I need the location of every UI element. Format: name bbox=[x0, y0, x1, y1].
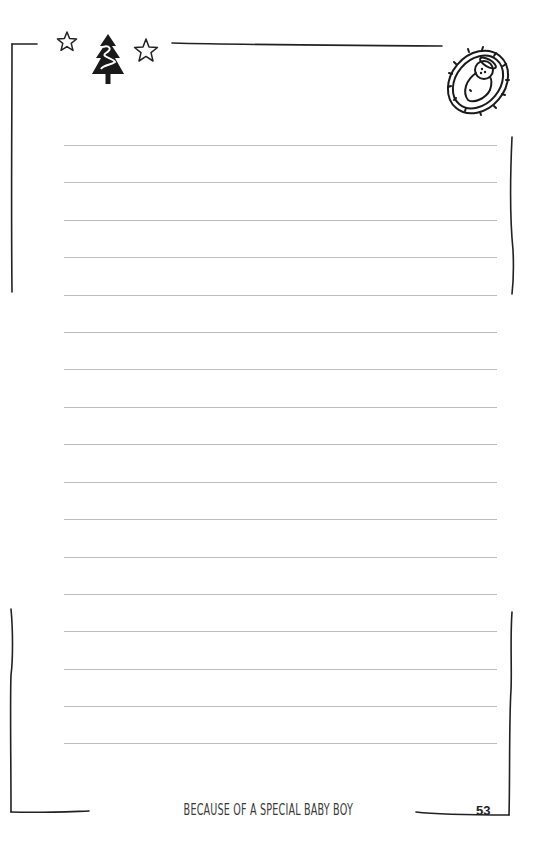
ruled-line[interactable] bbox=[64, 220, 497, 221]
ruled-line[interactable] bbox=[64, 594, 497, 595]
ruled-line[interactable] bbox=[64, 332, 497, 333]
journal-page: BECAUSE OF A SPECIAL BABY BOY 53 bbox=[0, 0, 537, 849]
ruled-line[interactable] bbox=[64, 295, 497, 296]
ruled-line[interactable] bbox=[64, 706, 497, 707]
frame-top-right-stroke bbox=[172, 43, 442, 46]
frame-right-lower bbox=[509, 612, 512, 815]
footer-title: BECAUSE OF A SPECIAL BABY BOY bbox=[102, 801, 435, 819]
ruled-line[interactable] bbox=[64, 519, 497, 520]
ruled-line[interactable] bbox=[64, 444, 497, 445]
ruled-line[interactable] bbox=[64, 669, 497, 670]
ruled-line[interactable] bbox=[64, 557, 497, 558]
page-frame bbox=[0, 0, 537, 849]
ruled-line[interactable] bbox=[64, 743, 497, 744]
ruled-line[interactable] bbox=[64, 257, 497, 258]
ruled-line[interactable] bbox=[64, 407, 497, 408]
frame-left-lower bbox=[11, 609, 13, 812]
frame-bottom-left bbox=[11, 811, 89, 812]
ruled-line[interactable] bbox=[64, 182, 497, 183]
baby-jesus-manger-icon bbox=[442, 44, 514, 120]
page-number: 53 bbox=[476, 803, 490, 818]
ruled-line[interactable] bbox=[64, 369, 497, 370]
christmas-tree-icon bbox=[89, 32, 127, 87]
ruled-line[interactable] bbox=[64, 631, 497, 632]
ruled-line[interactable] bbox=[64, 145, 497, 146]
frame-right-upper bbox=[511, 137, 514, 294]
ruled-line[interactable] bbox=[64, 482, 497, 483]
star-outline-icon bbox=[56, 30, 78, 54]
star-outline-icon bbox=[133, 37, 159, 65]
